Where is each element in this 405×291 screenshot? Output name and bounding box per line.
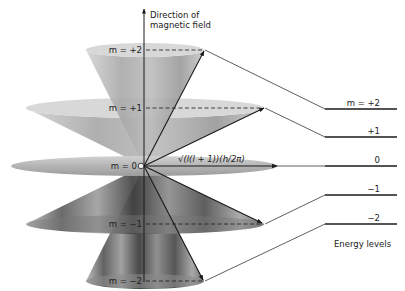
energy-label-plus-2: m = +2 (347, 98, 380, 108)
energy-label-minus-1: −1 (367, 184, 380, 194)
energy-label-minus-2: −2 (367, 213, 380, 223)
cone-m-minus-1 (26, 166, 264, 234)
cone-label-m-plus-1: m = +1 (109, 103, 142, 113)
cone-label-m-minus-1: m = −1 (109, 219, 142, 229)
energy-levels-title: Energy levels (334, 239, 392, 249)
axis-label-line2: magnetic field (150, 20, 211, 30)
cone-label-m-0: m = 0 (111, 161, 137, 171)
origin-marker (138, 163, 144, 169)
axis-label-line1: Direction of (150, 10, 200, 20)
vector-magnitude-label: √(l(l + 1))(h/2π) (178, 154, 245, 164)
cone-label-m-plus-2: m = +2 (109, 45, 142, 55)
cone-label-m-minus-2: m = −2 (109, 276, 142, 286)
magnetic-quantum-number-diagram: Direction of magnetic field m = +2 m = +… (0, 0, 405, 291)
energy-label-0: 0 (375, 155, 380, 165)
energy-label-plus-1: +1 (367, 126, 380, 136)
energy-level-lines (325, 109, 397, 224)
